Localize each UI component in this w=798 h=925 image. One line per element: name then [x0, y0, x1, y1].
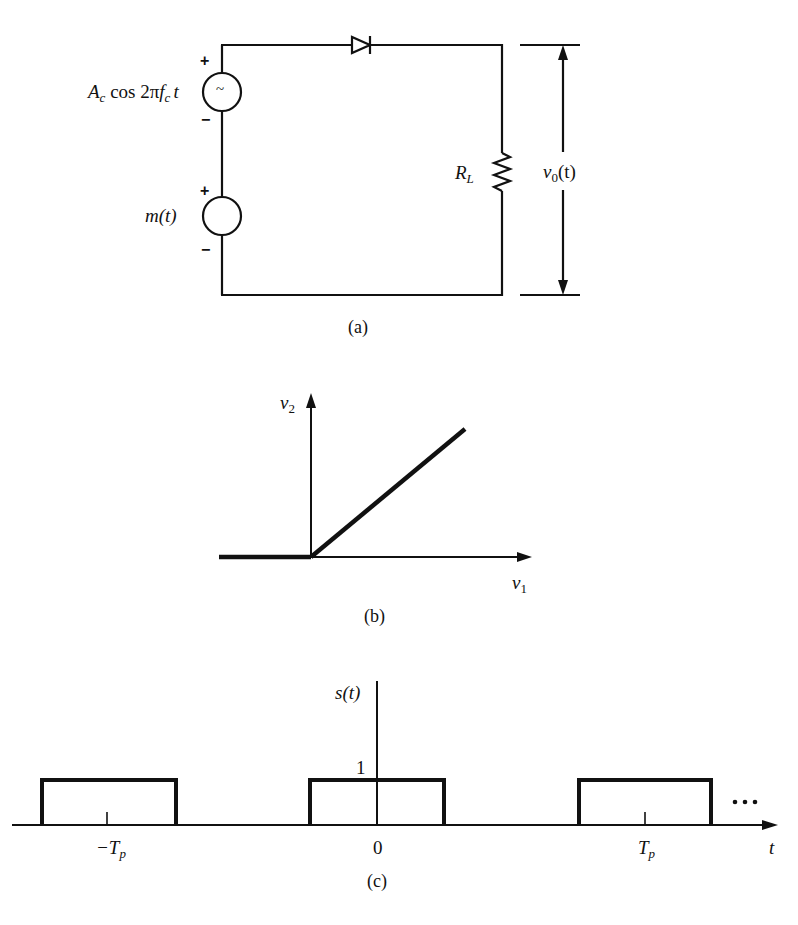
characteristic-ramp: [311, 429, 465, 557]
circuit-diagram: [203, 36, 580, 296]
v1-subscript: 1: [520, 581, 527, 596]
tp-symbol: T: [638, 837, 649, 858]
tick-label-zero: 0: [373, 838, 383, 857]
arrow-down-icon: [558, 280, 568, 295]
amplitude-level-label: 1: [356, 758, 366, 777]
t-axis-label: t: [769, 838, 774, 857]
source1-plus-sign: +: [200, 53, 209, 69]
pulse-left: [42, 780, 176, 825]
s-axis-label: s(t): [335, 683, 360, 702]
resistor-label: RL: [455, 163, 474, 182]
resistor-icon: [494, 153, 510, 191]
neg-tp-symbol: −T: [96, 837, 119, 858]
zero-symbol: 0: [373, 837, 383, 858]
source2-minus-sign: −: [201, 242, 210, 258]
tick-label-tp: Tp: [638, 838, 655, 857]
source2-plus-sign: +: [200, 183, 209, 199]
frequency-subscript: c: [165, 90, 171, 105]
arrow-right-icon: [517, 552, 532, 562]
output-voltage-label: v0(t): [543, 162, 576, 181]
source2-label: m(t): [145, 206, 177, 225]
v2-subscript: 2: [288, 401, 295, 416]
source1-minus-sign: −: [201, 112, 210, 128]
diode-icon: [352, 37, 370, 53]
figure-canvas: [0, 0, 798, 925]
source1-label: Ac cos 2πfct: [88, 82, 179, 101]
v2-axis-label: v2: [280, 393, 295, 412]
voltage-subscript: 0: [551, 170, 558, 185]
caption-b: (b): [364, 607, 385, 625]
signal-source-icon: [203, 197, 241, 235]
tp-subscript: p: [649, 846, 656, 861]
transfer-characteristic: [219, 393, 532, 562]
time-symbol: t: [173, 81, 178, 102]
ellipsis-dot: [733, 800, 738, 805]
pulse-train: [12, 681, 778, 830]
voltage-argument: (t): [558, 161, 576, 182]
amplitude-symbol: A: [88, 81, 100, 102]
arrow-right-icon: [762, 820, 778, 830]
caption-c: (c): [367, 872, 387, 890]
caption-a: (a): [348, 318, 368, 336]
cos-term: cos 2π: [105, 81, 159, 102]
tick-label-neg-tp: −Tp: [96, 838, 126, 857]
frequency-symbol: f: [159, 81, 164, 102]
resistor-subscript: L: [467, 171, 474, 186]
arrow-up-icon: [558, 45, 568, 60]
arrow-up-icon: [306, 393, 316, 408]
amplitude-subscript: c: [100, 90, 106, 105]
v1-axis-label: v1: [512, 573, 527, 592]
ellipsis-dot: [743, 800, 748, 805]
neg-tp-subscript: p: [119, 846, 126, 861]
ac-tilde-symbol: ~: [216, 82, 224, 97]
resistor-symbol: R: [455, 162, 467, 183]
ellipsis-dot: [753, 800, 758, 805]
